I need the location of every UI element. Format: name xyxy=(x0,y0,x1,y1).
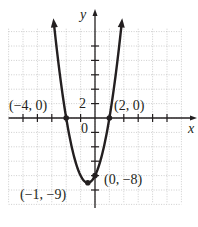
point-marker xyxy=(107,115,113,121)
point-label-y-intercept: (0, −8) xyxy=(104,172,143,188)
y-tick-label-2: 2 xyxy=(79,96,86,111)
point-marker xyxy=(85,180,91,186)
point-label-right-root: (2, 0) xyxy=(114,98,145,114)
x-axis-label: x xyxy=(187,121,195,136)
curve-arrow-icons xyxy=(51,18,125,27)
origin-label: 0 xyxy=(81,121,88,136)
point-marker xyxy=(92,173,98,179)
parabola-curve xyxy=(54,24,122,183)
point-label-vertex: (−1, −9) xyxy=(20,187,66,203)
y-axis-label: y xyxy=(78,7,87,22)
parabola-graph: x y 2 0 (−4, 0) (2, 0) (−1, −9) (0, −8) xyxy=(0,0,198,227)
point-marker xyxy=(63,115,69,121)
point-label-left-root: (−4, 0) xyxy=(9,98,48,114)
